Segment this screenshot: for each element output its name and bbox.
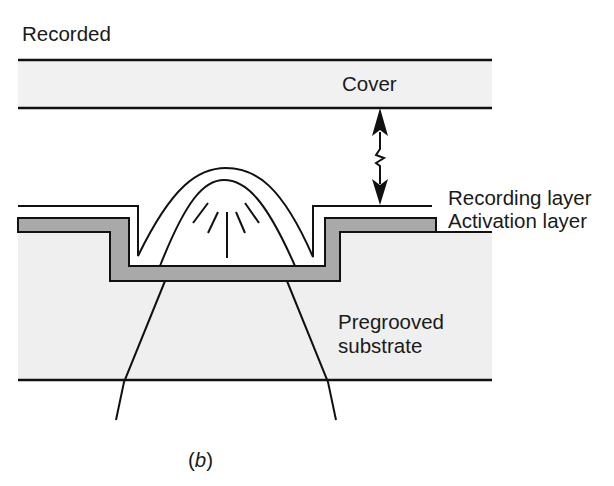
figure-title: Recorded <box>22 22 111 45</box>
caption-letter: b <box>195 448 206 471</box>
recorded-disc-cross-section-figure: Recorded Cover <box>0 0 614 486</box>
cover-label: Cover <box>342 72 397 95</box>
recording-layer-label: Recording layer <box>448 186 592 209</box>
activation-layer-label: Activation layer <box>448 209 587 232</box>
ray-left-inner <box>208 212 218 233</box>
figure-caption: (b) <box>188 448 213 471</box>
arrow-up-head-icon <box>372 108 388 136</box>
ray-left-outer <box>193 203 208 223</box>
double-headed-arrow-with-break-icon <box>372 108 388 205</box>
heat-rays-icon <box>193 203 259 258</box>
substrate-label-line2: substrate <box>338 334 422 357</box>
ray-right-inner <box>236 212 245 233</box>
cover-layer: Cover <box>18 60 492 108</box>
substrate-fill <box>18 232 492 380</box>
diagram-canvas: Recorded Cover <box>0 0 614 486</box>
substrate-label-line1: Pregrooved <box>338 310 444 333</box>
caption-close-paren: ) <box>206 448 213 471</box>
ray-right-outer <box>245 203 259 223</box>
cover-fill <box>18 60 492 108</box>
arrow-shaft <box>376 132 384 184</box>
